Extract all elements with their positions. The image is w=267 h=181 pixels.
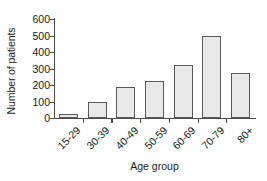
x-tick-label: 60-69: [165, 124, 198, 157]
x-axis-tick-labels: 15-2930-3940-4950-5960-6970-7980+: [0, 0, 267, 181]
x-tick-label: 70-79: [194, 124, 227, 157]
x-axis-title: Age group: [54, 160, 255, 172]
bar-chart-figure: Number of patients 0100200300400500600 1…: [0, 0, 267, 181]
x-tick-label: 40-49: [108, 124, 141, 157]
x-tick-label: 50-59: [136, 124, 169, 157]
x-tick-label: 80+: [223, 124, 256, 157]
x-tick-label: 15-29: [50, 124, 83, 157]
x-tick-label: 30-39: [79, 124, 112, 157]
